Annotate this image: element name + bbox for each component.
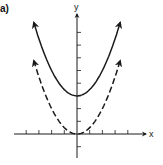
axes	[14, 14, 146, 158]
y-axis-label: y	[74, 2, 79, 12]
x-axis-label: x	[149, 129, 154, 139]
parabola-chart: x y	[0, 0, 163, 165]
